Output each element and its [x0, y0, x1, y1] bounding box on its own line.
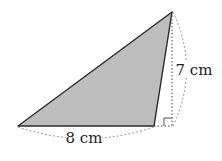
triangle-diagram: 8 cm 7 cm	[0, 0, 222, 161]
right-angle-marker	[164, 118, 172, 126]
shaded-triangle	[18, 12, 172, 126]
height-label: 7 cm	[176, 61, 213, 79]
base-label: 8 cm	[66, 129, 103, 147]
